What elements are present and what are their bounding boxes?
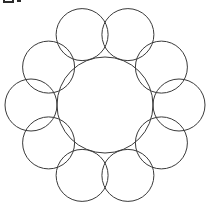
- figure-canvas: [0, 0, 207, 210]
- satellite-circle: [102, 149, 154, 201]
- circle-packing-diagram: [0, 0, 207, 210]
- center-circle: [57, 57, 153, 153]
